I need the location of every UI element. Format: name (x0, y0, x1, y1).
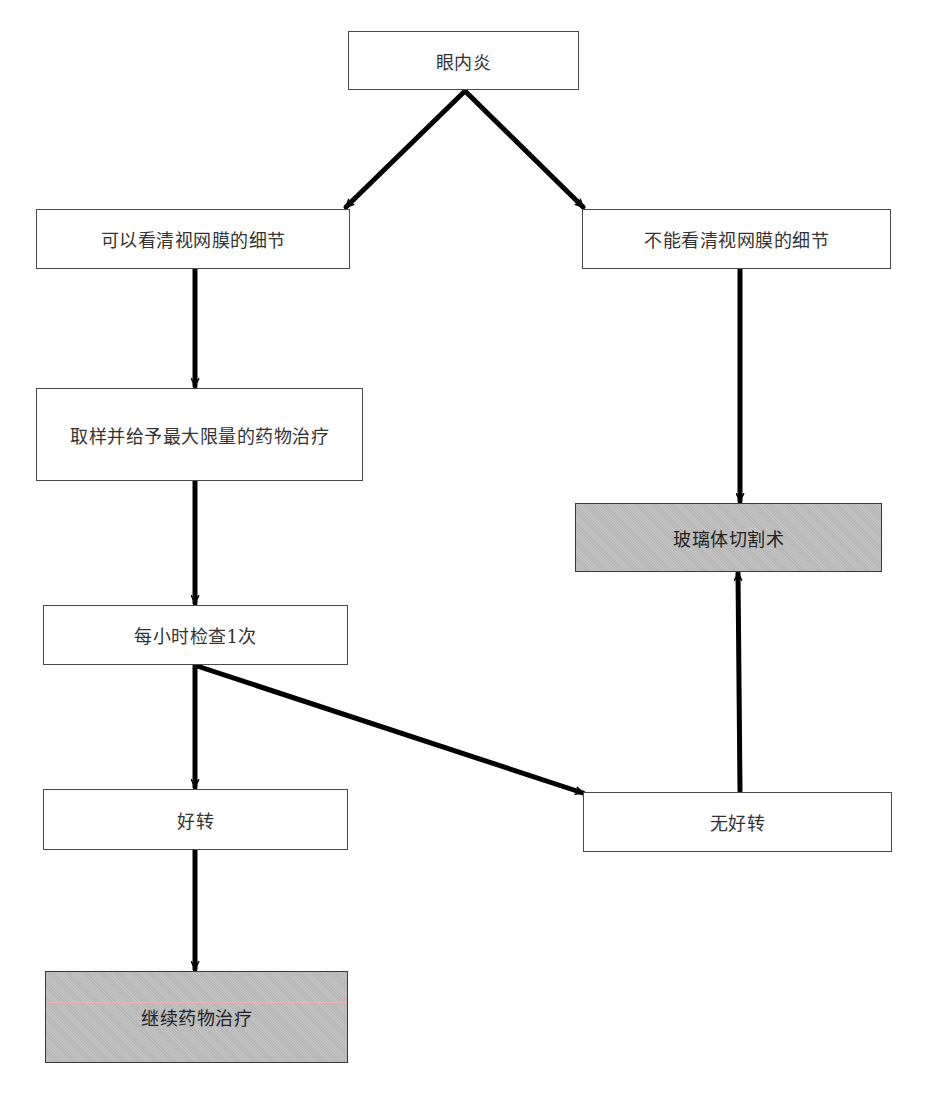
node-endophthalmitis: 眼内炎 (348, 31, 579, 90)
node-label: 无好转 (710, 809, 766, 835)
node-hourly-check: 每小时检查1次 (43, 605, 348, 665)
node-label: 取样并给予最大限量的药物治疗 (70, 422, 329, 448)
node-label: 继续药物治疗 (141, 1004, 252, 1030)
node-label: 每小时检查1次 (134, 622, 257, 648)
node-sample-and-treat: 取样并给予最大限量的药物治疗 (36, 388, 363, 481)
arrow-root-to-visible (346, 91, 465, 207)
node-label: 眼内炎 (436, 48, 492, 74)
arrow-root-to-not-visible (465, 91, 583, 207)
node-vitrectomy: 玻璃体切割术 (575, 503, 882, 572)
node-improved: 好转 (43, 789, 348, 850)
node-retina-visible: 可以看清视网膜的细节 (36, 209, 350, 269)
node-not-improved: 无好转 (583, 792, 892, 852)
node-retina-not-visible: 不能看清视网膜的细节 (582, 209, 891, 269)
node-label: 好转 (177, 807, 214, 833)
arrow-not-improved-to-vitrectomy (738, 573, 740, 791)
arrow-hourly-to-not-improved (197, 666, 583, 793)
node-label: 可以看清视网膜的细节 (101, 226, 286, 252)
node-label: 不能看清视网膜的细节 (644, 226, 829, 252)
scan-artifact-line (46, 1002, 347, 1003)
node-continue-medication: 继续药物治疗 (45, 971, 348, 1063)
node-label: 玻璃体切割术 (673, 525, 784, 551)
